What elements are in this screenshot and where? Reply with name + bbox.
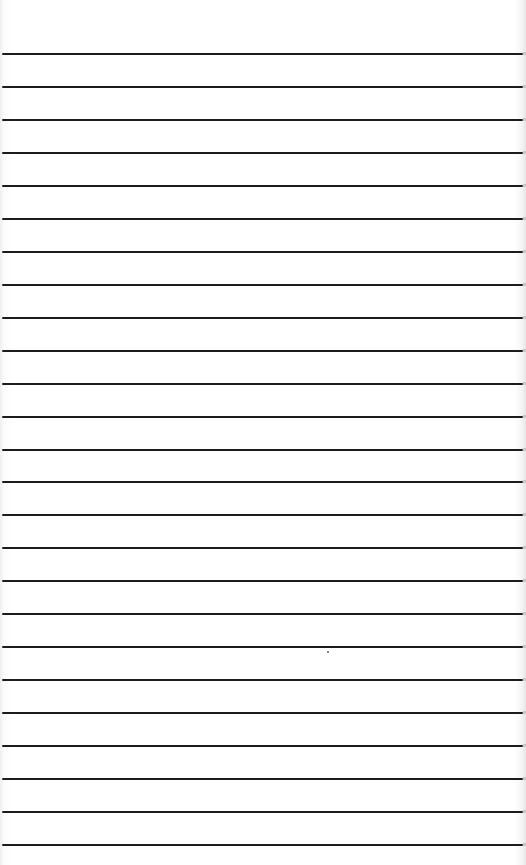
ruled-line bbox=[2, 646, 523, 648]
lined-paper-sheet bbox=[0, 0, 526, 865]
ruled-line bbox=[2, 218, 523, 220]
ruled-line bbox=[2, 745, 523, 747]
ruled-line bbox=[2, 580, 523, 582]
ruled-line bbox=[2, 514, 523, 516]
ruled-line bbox=[2, 86, 523, 88]
ruled-line bbox=[2, 481, 523, 483]
ruled-line bbox=[2, 251, 523, 253]
ruled-line bbox=[2, 53, 523, 55]
ruled-line bbox=[2, 284, 523, 286]
ruled-line bbox=[2, 119, 523, 121]
ruled-line bbox=[2, 844, 523, 846]
paper-speck bbox=[327, 651, 329, 653]
ruled-line bbox=[2, 449, 523, 451]
ruled-line bbox=[2, 152, 523, 154]
ruled-line bbox=[2, 416, 523, 418]
ruled-line bbox=[2, 811, 523, 813]
ruled-line bbox=[2, 679, 523, 681]
ruled-line bbox=[2, 547, 523, 549]
ruled-line bbox=[2, 712, 523, 714]
ruled-line bbox=[2, 317, 523, 319]
ruled-line bbox=[2, 185, 523, 187]
ruled-line bbox=[2, 778, 523, 780]
ruled-line bbox=[2, 383, 523, 385]
ruled-line bbox=[2, 350, 523, 352]
ruled-line bbox=[2, 613, 523, 615]
